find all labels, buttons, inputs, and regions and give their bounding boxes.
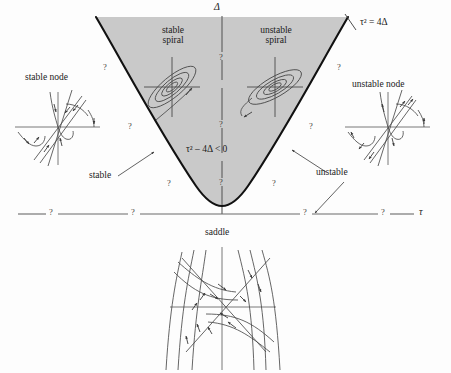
stable-branch-label: stable: [89, 171, 111, 181]
tau-axis-tick-3: ?: [381, 207, 385, 217]
delta-axis-tick-0: ?: [219, 52, 223, 62]
delta-axis-label: Δ: [214, 2, 220, 13]
stable-spiral-label-line2: spiral: [150, 36, 196, 46]
figure-container: Δ τ τ² = 4Δ τ² – 4Δ < 0 stable spiral un…: [0, 0, 451, 373]
region-inequality-label: τ² – 4Δ < 0: [186, 145, 227, 155]
leader-line-unstable-axis: [315, 182, 344, 213]
unstable-branch-label: unstable: [316, 168, 348, 178]
parabola-tick-left-2: ?: [167, 178, 171, 188]
region-inequality-text: τ² – 4Δ < 0: [186, 144, 227, 154]
delta-axis-tick-2: ?: [219, 177, 223, 187]
parabola-tick-left-0: ?: [103, 62, 107, 72]
leader-line-tau2-label: [345, 14, 356, 30]
unstable-node-portrait: [345, 90, 430, 166]
parabola-tick-right-1: ?: [309, 121, 313, 131]
tau-axis-tick-2: ?: [303, 207, 307, 217]
tau-axis-tick-1: ?: [131, 207, 135, 217]
parabola-equation-text: τ² = 4Δ: [360, 17, 388, 27]
parabola-tick-right-2: ?: [272, 178, 276, 188]
saddle-label: saddle: [205, 228, 229, 238]
parabola-tick-left-1: ?: [128, 121, 132, 131]
stable-spiral-label: stable spiral: [150, 26, 196, 46]
delta-axis-tick-1: ?: [219, 119, 223, 129]
stable-node-portrait: [15, 90, 100, 166]
unstable-spiral-label-line2: spiral: [249, 36, 303, 46]
unstable-spiral-label: unstable spiral: [249, 26, 303, 46]
parabola-equation-label: τ² = 4Δ: [360, 18, 388, 28]
saddle-portrait: [166, 247, 280, 370]
parabola-tick-right-0: ?: [337, 62, 341, 72]
tau-axis-tick-0: ?: [49, 207, 53, 217]
stable-node-label: stable node: [25, 73, 68, 83]
unstable-node-label: unstable node: [352, 80, 405, 90]
trace-determinant-diagram: [0, 0, 451, 373]
tau-axis-label: τ: [419, 207, 423, 218]
leader-line-stable: [118, 152, 154, 176]
